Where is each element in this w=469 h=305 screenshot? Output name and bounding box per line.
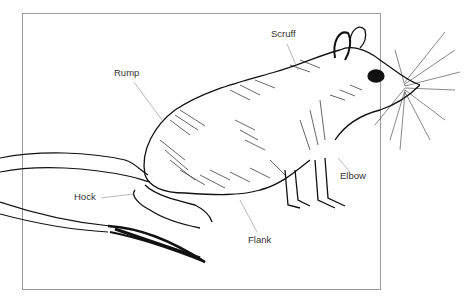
gerbil-illustration	[0, 0, 469, 305]
label-rump: Rump	[114, 68, 139, 78]
hock-leader	[101, 194, 133, 198]
label-hock: Hock	[74, 192, 96, 202]
fur-hatching	[160, 60, 362, 188]
whiskers	[375, 32, 460, 150]
rump-leader	[134, 82, 162, 120]
tail	[0, 153, 205, 262]
label-flank: Flank	[248, 235, 271, 245]
flank-leader	[240, 200, 257, 232]
label-scruff: Scruff	[271, 29, 296, 39]
label-elbow: Elbow	[340, 171, 366, 181]
body	[134, 27, 420, 228]
